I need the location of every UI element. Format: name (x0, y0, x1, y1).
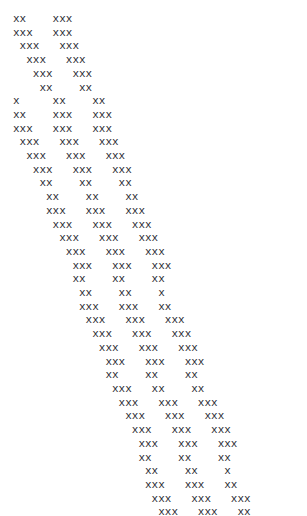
ascii-art-canvas: xx xxx xxx xxx xxx xxx xxx xxx xxx xxx x… (0, 0, 307, 516)
